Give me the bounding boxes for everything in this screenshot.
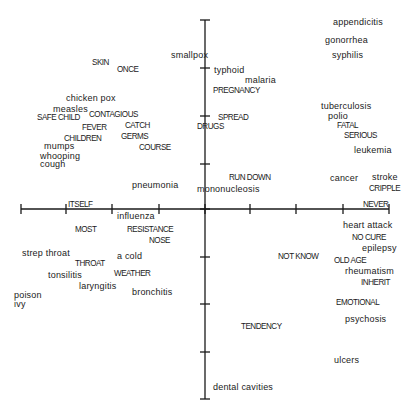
concept-label: RESISTANCE [127,225,173,234]
concept-label: RUN DOWN [229,173,271,182]
concept-label: TENDENCY [241,322,282,331]
disease-label: gonorrhea [325,36,368,45]
disease-label: heart attack [343,221,392,230]
disease-label: pneumonia [132,181,178,190]
perceptual-map: appendicitisgonorrheasyphilissmallpoxSKI… [0,0,417,408]
disease-label: chicken pox [66,94,116,103]
disease-label: ulcers [334,356,359,365]
disease-label: dental cavities [213,383,273,392]
disease-label: cough [40,160,66,169]
concept-label: CONTAGIOUS [89,110,138,119]
concept-label: CATCH [125,121,150,130]
disease-label: rheumatism [345,267,394,276]
concept-label: NOT KNOW [278,252,318,261]
concept-label: ITSELF [68,200,93,209]
disease-label: tonsilitis [48,271,82,280]
disease-label: epilepsy [362,244,397,253]
disease-label: strep throat [22,249,70,258]
disease-label: leukemia [354,146,392,155]
concept-label: GERMS [121,132,148,141]
disease-label: smallpox [171,51,208,60]
concept-label: DRUGS [197,122,224,131]
disease-label: mononucleosis [197,185,260,194]
disease-label: appendicitis [333,18,383,27]
disease-label: stroke [372,173,398,182]
concept-label: EMOTIONAL [336,298,379,307]
disease-label: tuberculosis [321,102,371,111]
concept-label: NEVER [363,200,388,209]
concept-label: MOST [75,225,96,234]
concept-label: FATAL [337,121,358,130]
concept-label: SKIN [92,58,109,67]
disease-label: cancer [330,174,358,183]
disease-label: laryngitis [79,282,117,291]
disease-label: ivy [14,300,26,309]
concept-label: NO CURE [352,233,386,242]
concept-label: OLD AGE [334,256,366,265]
concept-label: NOSE [149,236,170,245]
disease-label: influenza [117,212,155,221]
concept-label: WEATHER [114,269,150,278]
concept-label: SERIOUS [344,131,377,140]
concept-label: FEVER [82,123,107,132]
concept-label: THROAT [75,259,105,268]
concept-label: CRIPPLE [369,184,400,193]
disease-label: bronchitis [132,288,173,297]
concept-label: SAFE CHILD [37,113,80,122]
concept-label: COURSE [139,143,171,152]
concept-label: PREGNANCY [213,86,260,95]
disease-label: a cold [117,252,142,261]
concept-label: ONCE [117,65,138,74]
disease-label: malaria [245,76,276,85]
disease-label: syphilis [332,51,363,60]
concept-label: INHERIT [361,278,390,287]
disease-label: typhoid [214,66,244,75]
disease-label: psychosis [345,315,386,324]
axes [0,0,417,408]
disease-label: mumps [44,142,75,151]
